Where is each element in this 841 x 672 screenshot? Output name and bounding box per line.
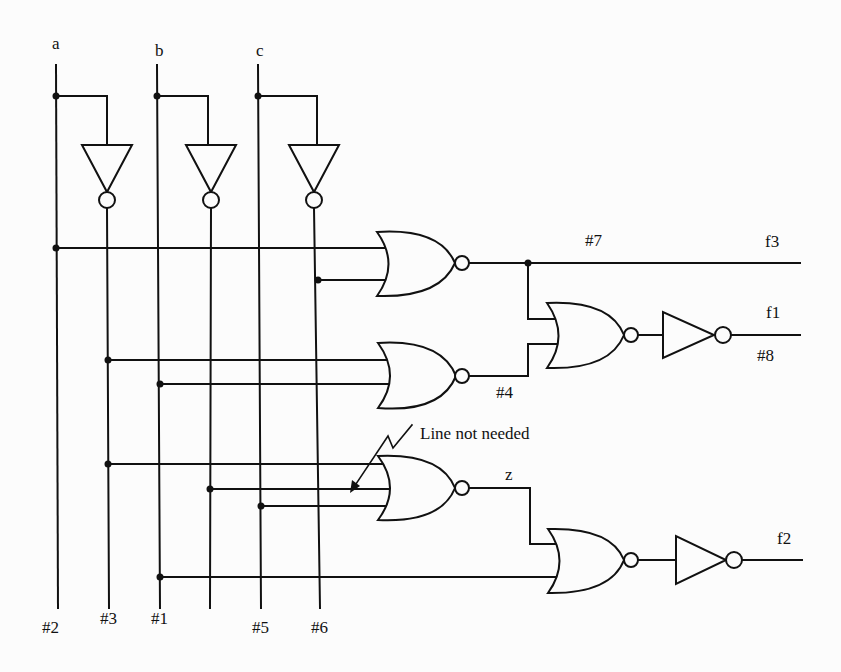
nor-gate-2 — [378, 343, 469, 409]
junction — [207, 486, 214, 493]
nor-gate-5 — [548, 529, 638, 593]
junction — [315, 277, 322, 284]
input-label-b: b — [155, 41, 164, 60]
output-label-f3: f3 — [765, 232, 779, 251]
rail-c — [258, 65, 261, 608]
nor-gate-4 — [378, 456, 469, 520]
wire-a-to-inverter — [56, 96, 107, 145]
wire-z-to-nor5 — [469, 488, 560, 544]
bottom-label-c: #5 — [252, 618, 269, 637]
junction-a-top — [53, 93, 60, 100]
bottom-label-c-not: #6 — [311, 618, 328, 637]
junction — [53, 245, 60, 252]
inverter-f1 — [663, 312, 731, 358]
junction — [157, 574, 164, 581]
rail-a — [56, 65, 58, 608]
inverter-b — [186, 145, 236, 208]
junction — [157, 381, 164, 388]
input-label-c: c — [256, 41, 264, 60]
net-label-z: z — [505, 465, 513, 484]
inverter-c — [289, 145, 339, 208]
rail-c-not — [314, 208, 320, 608]
inverter-f2 — [676, 536, 742, 584]
junction-c-top — [255, 93, 262, 100]
nor-gate-3 — [547, 303, 638, 368]
net-label-7: #7 — [585, 231, 603, 250]
logic-circuit-diagram: a b c — [0, 0, 841, 672]
wire-n4-to-nor3 — [469, 344, 560, 376]
output-label-f1: f1 — [766, 303, 780, 322]
rail-a-not — [107, 208, 109, 608]
rail-b-not — [210, 208, 211, 608]
nor-gate-1 — [377, 232, 469, 297]
output-label-f2: f2 — [777, 529, 791, 548]
junction-b-top — [154, 93, 161, 100]
inverter-a — [82, 145, 132, 208]
net-label-4: #4 — [496, 383, 514, 402]
circuit-svg: a b c — [0, 0, 841, 672]
wire-c-to-inverter — [258, 96, 317, 145]
bottom-label-a-not: #3 — [100, 609, 117, 628]
annotation-text: Line not needed — [420, 424, 530, 443]
bottom-label-a: #2 — [42, 618, 59, 637]
input-label-a: a — [52, 34, 60, 53]
junction — [105, 461, 112, 468]
rail-b — [157, 65, 160, 608]
junction — [105, 357, 112, 364]
wire-b-to-inverter — [157, 96, 208, 145]
bottom-label-b: #1 — [151, 609, 168, 628]
net-label-8: #8 — [757, 346, 774, 365]
junction — [258, 503, 265, 510]
